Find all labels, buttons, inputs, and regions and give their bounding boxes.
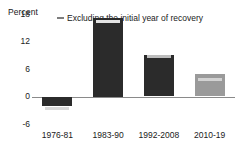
y-tick-label: 12 bbox=[4, 37, 30, 46]
y-tick-label: 18 bbox=[4, 10, 30, 19]
x-tick-label: 1983-90 bbox=[93, 130, 124, 140]
excluding-recovery-marker bbox=[147, 55, 171, 58]
x-tick-label: 1976-81 bbox=[42, 130, 73, 140]
excluding-recovery-marker bbox=[45, 107, 69, 110]
plot-area bbox=[32, 14, 235, 124]
bar bbox=[195, 74, 225, 97]
x-tick-label: 1992-2008 bbox=[139, 130, 180, 140]
bar bbox=[144, 55, 174, 97]
excluding-recovery-marker bbox=[96, 20, 120, 23]
x-tick-label: 2010-19 bbox=[194, 130, 225, 140]
bar bbox=[93, 18, 123, 96]
bar-chart: Percent 18 12 6 0 -6 Excluding the initi… bbox=[0, 0, 240, 148]
y-tick-label: 0 bbox=[4, 92, 30, 101]
y-axis-tick-labels: 18 12 6 0 -6 bbox=[0, 0, 30, 148]
bar bbox=[42, 97, 72, 106]
bar-series bbox=[32, 14, 235, 124]
x-axis-tick-labels: 1976-811983-901992-20082010-19 bbox=[32, 130, 235, 144]
excluding-recovery-marker bbox=[198, 78, 222, 81]
y-tick-label: -6 bbox=[4, 120, 30, 129]
y-tick-label: 6 bbox=[4, 65, 30, 74]
